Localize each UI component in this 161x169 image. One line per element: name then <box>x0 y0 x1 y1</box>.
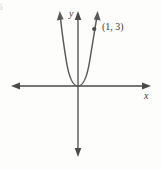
y-axis-top-arrowhead <box>75 11 82 20</box>
x-axis-left-arrowhead <box>11 83 20 90</box>
parabola-left-branch-arrowhead <box>57 11 64 21</box>
point-annotation-label: (1, 3) <box>102 22 124 32</box>
point-marker-1-3 <box>92 27 96 31</box>
coordinate-plane-graphic <box>0 0 161 169</box>
x-axis-group <box>11 83 151 90</box>
y-axis-label: y <box>69 9 73 19</box>
x-axis-right-arrowhead <box>142 83 151 90</box>
y-axis-group <box>75 11 82 157</box>
x-axis-label: x <box>144 91 148 101</box>
parabola-right-branch-arrowhead <box>94 11 101 20</box>
parabola-left-branch <box>61 18 79 86</box>
y-axis-bottom-arrowhead <box>75 148 82 157</box>
parabola-curve-group <box>57 11 101 86</box>
graph-figure: 6 y x (1, 3) <box>0 0 161 169</box>
